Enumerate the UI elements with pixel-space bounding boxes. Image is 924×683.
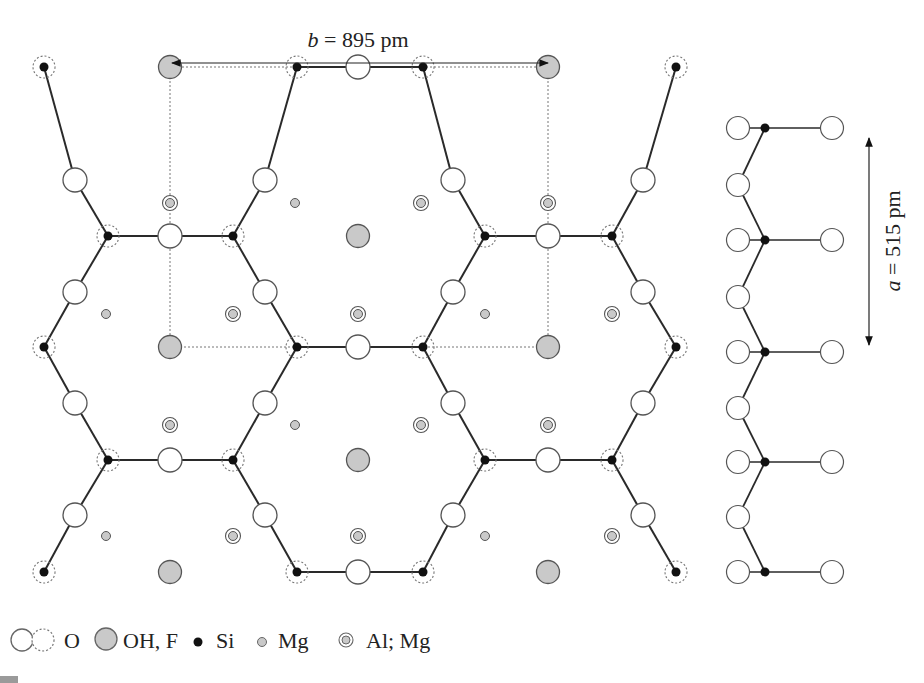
legend-label-al-mg: Al; Mg xyxy=(366,628,430,653)
oxygen-atom xyxy=(631,503,655,527)
mg-atom xyxy=(102,532,111,541)
si-atom xyxy=(608,232,617,241)
al-mg-atom-core xyxy=(354,310,363,319)
side-oxygen-atom xyxy=(727,341,750,364)
oh-f-legend-icon xyxy=(95,628,117,650)
side-si-atom xyxy=(761,568,770,577)
side-oxygen-atom xyxy=(727,286,750,309)
oxygen-atom xyxy=(158,224,182,248)
corner-mark xyxy=(0,676,18,683)
al-mg-atom-core xyxy=(229,310,238,319)
legend-label-o: O xyxy=(64,628,80,653)
oxygen-atom xyxy=(536,224,560,248)
mg-atom xyxy=(481,310,490,319)
oxygen-legend-icon xyxy=(11,629,33,651)
dimension-arrows: b = 895 pm a = 515 pm xyxy=(172,27,905,345)
al-mg-atom-core xyxy=(608,310,617,319)
si-atom xyxy=(293,568,302,577)
oxygen-atom xyxy=(631,391,655,415)
oxygen-atom xyxy=(631,168,655,192)
si-atom xyxy=(419,63,428,72)
legend-label-oh-f: OH, F xyxy=(123,628,178,653)
si-atom xyxy=(40,568,49,577)
bond-line xyxy=(423,67,453,180)
bond-line xyxy=(44,67,75,180)
oxygen-atom xyxy=(253,280,277,304)
si-atom xyxy=(40,63,49,72)
oh-f-atom xyxy=(537,56,560,79)
side-oxygen-atom xyxy=(727,561,750,584)
oxygen-atom xyxy=(441,503,465,527)
legend-label-mg: Mg xyxy=(278,628,309,653)
side-oxygen-atom xyxy=(821,229,844,252)
al-mg-atom-core xyxy=(544,199,553,208)
oxygen-atom xyxy=(63,168,87,192)
oh-f-atom xyxy=(347,449,370,472)
unit-cell-outline xyxy=(170,67,548,347)
legend-label-si: Si xyxy=(216,628,234,653)
oxygen-atom xyxy=(346,560,370,584)
si-atom xyxy=(293,343,302,352)
si-atom xyxy=(419,568,428,577)
oxygen-dotted-legend-icon xyxy=(32,629,54,651)
si-atom xyxy=(104,232,113,241)
side-oxygen-atom xyxy=(727,506,750,529)
oxygen-atom xyxy=(346,55,370,79)
si-atom xyxy=(672,63,681,72)
mg-atom xyxy=(291,421,300,430)
bond-line xyxy=(643,67,676,180)
side-oxygen-atom xyxy=(727,229,750,252)
oh-f-atom xyxy=(537,336,560,359)
si-atom xyxy=(419,343,428,352)
atoms xyxy=(33,55,687,584)
si-atom xyxy=(481,456,490,465)
si-atom xyxy=(672,568,681,577)
si-atom xyxy=(40,343,49,352)
oh-f-atom xyxy=(159,56,182,79)
side-oxygen-atom xyxy=(821,451,844,474)
si-atom xyxy=(293,63,302,72)
oxygen-atom xyxy=(631,280,655,304)
side-oxygen-atom xyxy=(727,397,750,420)
si-legend-icon xyxy=(194,638,203,647)
al-mg-atom-core xyxy=(166,199,175,208)
oh-f-atom xyxy=(159,336,182,359)
al-mg-atom-core xyxy=(544,421,553,430)
side-si-atom xyxy=(761,236,770,245)
oxygen-atom xyxy=(441,280,465,304)
si-atom xyxy=(481,232,490,241)
al-mg-atom-core xyxy=(229,532,238,541)
oxygen-atom xyxy=(63,280,87,304)
oh-f-atom xyxy=(159,561,182,584)
oxygen-atom xyxy=(158,448,182,472)
oxygen-atom xyxy=(63,503,87,527)
oxygen-atom xyxy=(441,391,465,415)
side-view-chain xyxy=(727,117,844,584)
si-atom xyxy=(672,343,681,352)
si-atom xyxy=(229,232,238,241)
side-si-atom xyxy=(761,348,770,357)
a-dimension-label: a = 515 pm xyxy=(880,190,905,291)
side-oxygen-atom xyxy=(821,341,844,364)
mg-atom xyxy=(481,532,490,541)
mg-atom xyxy=(291,199,300,208)
side-oxygen-atom xyxy=(821,561,844,584)
side-oxygen-atom xyxy=(821,117,844,140)
al-mg-atom-core xyxy=(417,421,426,430)
oxygen-atom xyxy=(346,335,370,359)
side-si-atom xyxy=(761,124,770,133)
oxygen-atom xyxy=(253,503,277,527)
silicate-layer-diagram: b = 895 pm a = 515 pm O OH, F Si Mg Al; … xyxy=(0,0,924,683)
unit-cell-rect xyxy=(170,67,548,347)
mg-legend-icon xyxy=(258,638,267,647)
side-si-atom xyxy=(761,458,770,467)
al-mg-atom-core xyxy=(354,532,363,541)
oh-f-atom xyxy=(347,225,370,248)
si-atom xyxy=(608,456,617,465)
oxygen-atom xyxy=(441,168,465,192)
oxygen-atom xyxy=(536,448,560,472)
bond-line xyxy=(265,67,297,180)
oxygen-atom xyxy=(253,168,277,192)
oh-f-atom xyxy=(537,561,560,584)
al-mg-atom-core xyxy=(608,532,617,541)
